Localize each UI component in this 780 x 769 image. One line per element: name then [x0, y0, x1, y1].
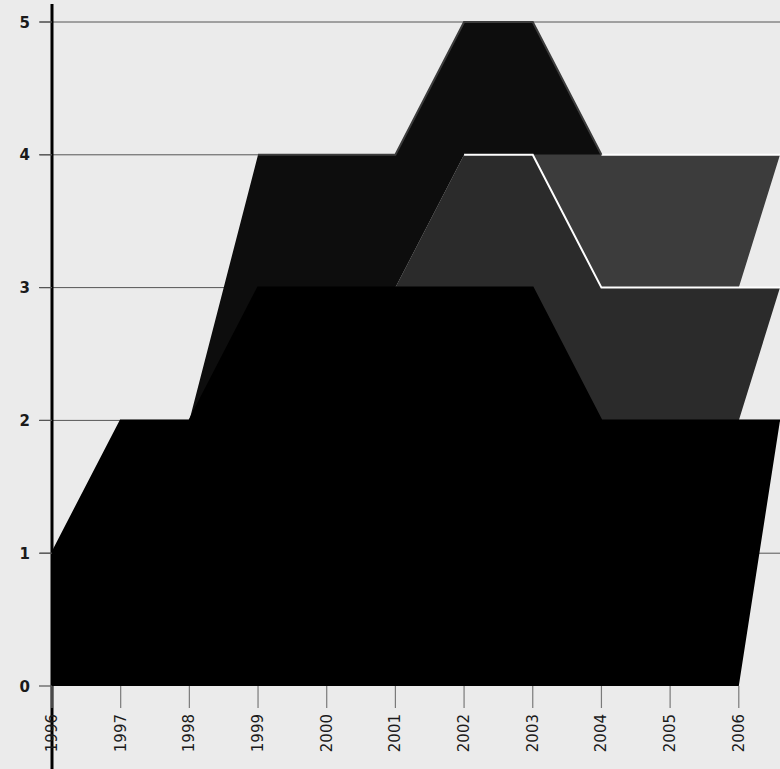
y-tick-label: 1	[20, 545, 30, 563]
x-tick-label: 2003	[524, 714, 542, 752]
y-tick-label: 2	[20, 412, 30, 430]
x-tick-label: 2000	[318, 714, 336, 752]
x-tick-label: 1999	[249, 714, 267, 752]
y-tick-label: 4	[20, 146, 30, 164]
y-tick-label: 5	[20, 14, 30, 32]
x-tick-label: 2004	[592, 714, 610, 752]
y-tick-label: 0	[20, 678, 30, 696]
x-tick-label: 1997	[112, 714, 130, 752]
x-tick-label: 1996	[43, 714, 61, 752]
x-tick-label: 2002	[455, 714, 473, 752]
chart-canvas: 543210 199619971998199920002001200220032…	[0, 0, 780, 769]
x-tick-label: 1998	[180, 714, 198, 752]
x-tick-label: 2005	[661, 714, 679, 752]
x-tick-label: 2001	[386, 714, 404, 752]
x-tick-label: 2006	[730, 714, 748, 752]
stacked-area-chart: 543210 199619971998199920002001200220032…	[0, 0, 780, 769]
y-tick-label: 3	[20, 279, 30, 297]
